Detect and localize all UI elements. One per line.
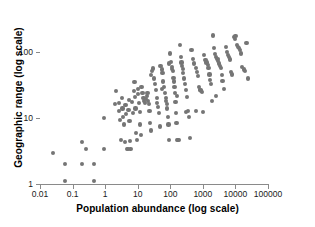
data-point: [222, 87, 226, 91]
data-point: [167, 61, 171, 65]
data-point: [114, 89, 118, 93]
data-point: [179, 55, 183, 59]
data-point: [135, 138, 139, 142]
data-point: [192, 61, 196, 65]
data-point: [174, 111, 178, 115]
data-point: [63, 162, 67, 166]
data-point: [200, 90, 204, 94]
data-point: [80, 140, 84, 144]
data-point: [151, 66, 155, 70]
data-point: [165, 106, 169, 110]
data-point: [211, 33, 215, 37]
data-point: [210, 99, 214, 103]
data-point: [244, 41, 248, 45]
data-point: [201, 110, 205, 114]
data-point: [174, 121, 178, 125]
data-point: [184, 88, 188, 92]
data-point: [140, 91, 144, 95]
x-tick-label: 1: [103, 190, 108, 199]
data-point: [145, 91, 149, 95]
data-point: [228, 57, 232, 61]
data-point: [165, 102, 169, 106]
data-point: [117, 101, 121, 105]
x-tick-label: 100: [163, 190, 177, 199]
data-point: [185, 95, 189, 99]
data-point: [196, 74, 200, 78]
x-tick-label: 100000: [254, 190, 282, 199]
data-point: [187, 115, 191, 119]
x-axis-title: Population abundance (log scale): [0, 203, 315, 214]
data-point: [168, 51, 172, 55]
data-point: [160, 71, 164, 75]
data-point: [239, 51, 243, 55]
data-point: [124, 112, 128, 116]
scatter-plot-figure: 110100 0.010.1110100100010000100000 Popu…: [0, 0, 315, 227]
data-point: [155, 96, 159, 100]
x-tick-label: 0.1: [67, 190, 79, 199]
data-point: [84, 147, 88, 151]
data-point: [120, 96, 124, 100]
data-point: [191, 57, 195, 61]
data-point: [138, 110, 142, 114]
data-point: [102, 147, 106, 151]
data-point: [92, 179, 96, 183]
data-point: [158, 124, 162, 128]
data-point: [166, 115, 170, 119]
data-point: [161, 79, 165, 83]
data-point: [156, 105, 160, 109]
data-point: [154, 88, 158, 92]
data-point: [128, 139, 132, 143]
data-point: [147, 109, 151, 113]
data-point: [147, 102, 151, 106]
data-point: [137, 101, 141, 105]
data-point: [246, 76, 250, 80]
data-point: [102, 116, 106, 120]
data-point: [171, 69, 175, 73]
data-point: [51, 151, 55, 155]
data-point: [120, 106, 124, 110]
data-point: [148, 121, 152, 125]
data-point: [207, 72, 211, 76]
data-point: [139, 133, 143, 137]
data-point: [220, 79, 224, 83]
x-tick-label: 0.01: [32, 190, 49, 199]
x-tick-label: 10: [133, 190, 142, 199]
data-point: [214, 94, 218, 98]
data-point: [172, 79, 176, 83]
data-point: [202, 53, 206, 57]
data-point: [80, 162, 84, 166]
data-point: [126, 108, 130, 112]
data-point: [166, 122, 170, 126]
data-point: [220, 73, 224, 77]
data-point: [153, 82, 157, 86]
plot-area: [40, 15, 268, 184]
data-point: [130, 100, 134, 104]
data-point: [172, 85, 176, 89]
data-point: [139, 85, 143, 89]
y-axis-title: Geographic range (log scale): [13, 8, 24, 188]
data-point: [209, 82, 213, 86]
data-point: [181, 71, 185, 75]
data-point: [163, 91, 167, 95]
data-point: [63, 179, 67, 183]
data-point: [175, 94, 179, 98]
data-point: [178, 43, 182, 47]
data-point: [152, 76, 156, 80]
data-point: [122, 122, 126, 126]
data-point: [138, 122, 142, 126]
data-point: [233, 34, 237, 38]
data-point: [134, 131, 138, 135]
data-point: [212, 46, 216, 50]
data-point: [188, 136, 192, 140]
data-point: [230, 72, 234, 76]
data-point: [132, 80, 136, 84]
data-point: [123, 140, 127, 144]
data-point: [123, 103, 127, 107]
data-point: [184, 110, 188, 114]
x-tick-label: 1000: [193, 190, 212, 199]
data-point: [194, 109, 198, 113]
data-point: [133, 106, 137, 110]
data-point: [167, 138, 171, 142]
data-point: [243, 69, 247, 73]
data-point: [128, 147, 132, 151]
